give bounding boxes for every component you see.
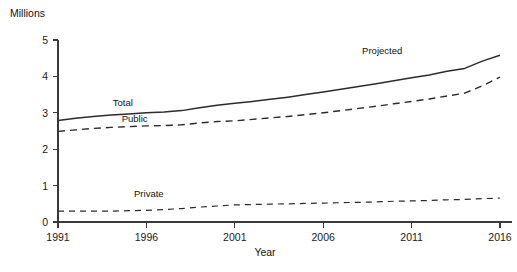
series-line-total [58, 55, 500, 120]
x-tick-label: 1996 [135, 231, 159, 243]
x-tick-label: 2006 [312, 231, 336, 243]
x-axis-title: Year [254, 246, 276, 258]
y-tick-label: 4 [42, 70, 48, 82]
x-tick-label: 2011 [400, 231, 423, 243]
chart-canvas: Millions 012345 199119962001200620112016… [0, 0, 517, 272]
total-series-label: Total [113, 97, 133, 108]
y-tick-label: 0 [42, 216, 48, 228]
x-tick-label: 2016 [488, 231, 512, 243]
series-group [58, 55, 500, 211]
y-axis-title: Millions [10, 7, 45, 19]
x-tick-label: 1991 [46, 231, 70, 243]
y-tick-label: 3 [42, 107, 48, 119]
y-tick-group: 012345 [42, 34, 58, 228]
line-chart: Millions 012345 199119962001200620112016… [0, 0, 517, 272]
projected-annotation: Projected [362, 45, 402, 56]
annotation-group: ProjectedTotalPublicPrivate [113, 45, 402, 199]
series-line-private [58, 198, 500, 211]
x-tick-group: 199119962001200620112016 [46, 222, 512, 243]
y-tick-label: 2 [42, 143, 48, 155]
y-tick-label: 5 [42, 34, 48, 46]
private-series-label: Private [134, 188, 164, 199]
x-tick-label: 2001 [223, 231, 247, 243]
y-tick-label: 1 [42, 180, 48, 192]
public-series-label: Public [122, 113, 148, 124]
